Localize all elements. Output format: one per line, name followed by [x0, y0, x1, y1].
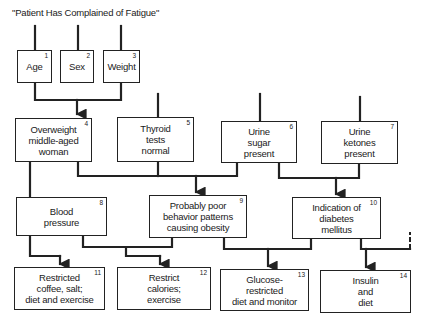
node-overweight-middle-aged-woman: Overweight middle-aged woman 4 — [15, 118, 92, 162]
node-label: Glucose- restricted diet and monitor — [228, 274, 301, 307]
node-number: 5 — [186, 119, 190, 126]
node-label: Overweight middle-aged woman — [24, 124, 82, 157]
node-thyroid-tests-normal: Thyroid tests normal 5 — [117, 117, 194, 162]
node-number: 7 — [390, 123, 394, 130]
node-restrict-calories: Restrict calories; exercise 12 — [117, 267, 211, 310]
node-indication-of-diabetes: Indication of diabetes mellitus 10 — [292, 197, 381, 239]
node-insulin-and-diet: Insulin and diet 14 — [320, 270, 411, 313]
node-blood-pressure: Blood pressure 8 — [16, 197, 107, 236]
node-number: 13 — [298, 271, 305, 278]
node-number: 3 — [132, 52, 136, 59]
node-urine-sugar-present: Urine sugar present 6 — [221, 121, 297, 163]
node-number: 14 — [400, 272, 407, 279]
node-label: Restrict calories; exercise — [143, 272, 185, 305]
node-number: 8 — [99, 199, 103, 206]
node-glucose-restricted-diet: Glucose- restricted diet and monitor 13 — [220, 269, 309, 311]
node-number: 2 — [86, 52, 90, 59]
node-label: Blood pressure — [40, 206, 83, 228]
node-poor-behavior-patterns: Probably poor behavior patterns causing … — [149, 195, 247, 238]
node-label: Sex — [65, 61, 89, 72]
node-number: 11 — [94, 269, 101, 276]
node-number: 12 — [200, 269, 207, 276]
node-label: Indication of diabetes mellitus — [308, 202, 365, 235]
node-label: Insulin and diet — [348, 275, 382, 308]
node-number: 10 — [370, 199, 377, 206]
node-restricted-coffee-salt: Restricted coffee, salt; diet and exerci… — [14, 267, 105, 310]
node-number: 4 — [84, 120, 88, 127]
node-weight: Weight 3 — [103, 50, 140, 83]
node-number: 6 — [289, 123, 293, 130]
node-number: 9 — [239, 197, 243, 204]
node-label: Restricted coffee, salt; diet and exerci… — [21, 272, 97, 305]
node-urine-ketones-present: Urine ketones present 7 — [321, 121, 398, 164]
node-number: 1 — [44, 52, 48, 59]
node-label: Urine sugar present — [240, 126, 278, 159]
node-sex: Sex 2 — [60, 50, 94, 83]
node-label: Weight — [103, 61, 139, 72]
node-age: Age 1 — [17, 50, 52, 83]
node-label: Probably poor behavior patterns causing … — [159, 200, 237, 233]
node-label: Thyroid tests normal — [136, 123, 174, 156]
node-label: Urine ketones present — [340, 126, 380, 159]
node-label: Age — [22, 61, 46, 72]
